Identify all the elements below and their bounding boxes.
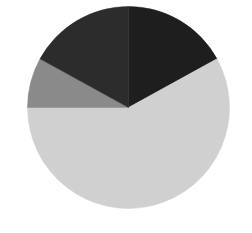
- pie-chart: [0, 0, 252, 233]
- pie-chart-canvas: [0, 0, 252, 233]
